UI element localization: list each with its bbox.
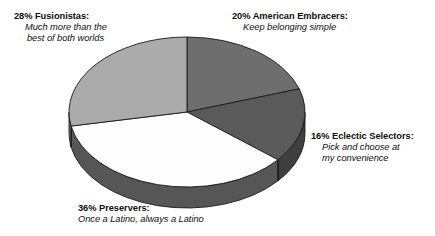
slice-label-preservers-head: 36% Preservers:: [78, 203, 204, 214]
slice-label-preservers: 36% Preservers: Once a Latino, always a …: [78, 203, 204, 225]
slice-label-fusionistas-head: 28% Fusionistas:: [14, 11, 107, 22]
slice-label-american-embracers-line1: Keep belonging simple: [232, 22, 348, 33]
slice-label-eclectic-selectors-line1: Pick and choose at: [311, 142, 414, 153]
slice-label-american-embracers-head: 20% American Embracers:: [232, 11, 348, 22]
slice-label-american-embracers: 20% American Embracers: Keep belonging s…: [232, 11, 348, 33]
slice-label-eclectic-selectors: 16% Eclectic Selectors: Pick and choose …: [311, 131, 414, 164]
slice-label-eclectic-selectors-head: 16% Eclectic Selectors:: [311, 131, 414, 142]
slice-label-eclectic-selectors-line2: my convenience: [311, 153, 414, 164]
slice-label-preservers-line1: Once a Latino, always a Latino: [78, 214, 204, 225]
pie-slice-fusionistas: [69, 37, 187, 126]
pie-chart-figure: 28% Fusionistas: Much more than the best…: [0, 0, 435, 236]
slice-label-fusionistas-line2: best of both worlds: [14, 33, 107, 44]
slice-label-fusionistas: 28% Fusionistas: Much more than the best…: [14, 11, 107, 44]
slice-label-fusionistas-line1: Much more than the: [14, 22, 107, 33]
pie-slices-group: [69, 37, 305, 208]
